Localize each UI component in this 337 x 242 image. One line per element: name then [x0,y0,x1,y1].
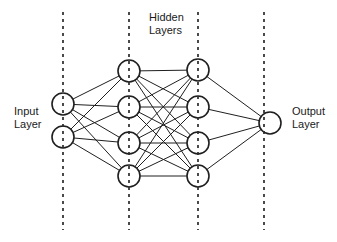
neuron-node-i2[interactable] [52,126,74,148]
input-layer-label: Input Layer [14,105,42,131]
connection-edges [63,70,270,176]
output-layer-label: Output Layer [292,105,325,131]
layer-divider-lines [63,12,264,230]
neuron-node-h1_2[interactable] [118,96,140,118]
neuron-node-h1_3[interactable] [118,132,140,154]
neural-network-diagram: Input Layer Hidden Layers Output Layer [0,0,337,242]
hidden-layers-label: Hidden Layers [149,11,184,37]
neuron-node-h2_3[interactable] [187,132,209,154]
connection-edge [198,123,270,176]
neuron-node-o1[interactable] [259,112,281,134]
neuron-node-h2_2[interactable] [187,96,209,118]
